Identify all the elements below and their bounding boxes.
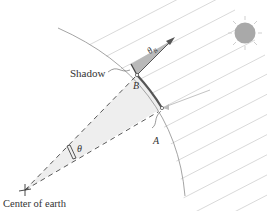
shadow-label: Shadow xyxy=(70,68,105,79)
angle-center-label: θ xyxy=(77,144,82,154)
point-a-label: A xyxy=(153,136,159,146)
diagram-svg xyxy=(0,0,267,211)
central-wedge xyxy=(25,75,162,190)
point-b-label: B xyxy=(133,81,139,91)
eratosthenes-diagram: Shadow B A θ θB Center of earth xyxy=(0,0,267,211)
center-of-earth-label: Center of earth xyxy=(3,199,66,210)
ray-a xyxy=(162,90,210,108)
shadow-leader xyxy=(108,69,130,72)
point-b xyxy=(135,73,138,76)
point-a xyxy=(160,106,163,109)
